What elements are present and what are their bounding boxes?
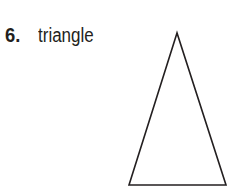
- triangle-icon: [0, 0, 242, 192]
